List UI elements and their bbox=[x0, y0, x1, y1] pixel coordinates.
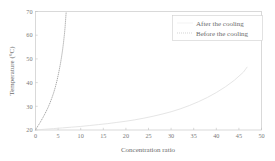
y-tick-label: 50 bbox=[26, 55, 32, 62]
x-tick-label: 0 bbox=[34, 132, 37, 139]
series-line-before-the-cooling bbox=[36, 12, 67, 131]
x-tick-label: 45 bbox=[236, 132, 242, 139]
y-axis-tick-labels: 203040506070 bbox=[26, 8, 32, 134]
x-tick-label: 5 bbox=[57, 132, 60, 139]
y-axis-title: Temperature (°C) bbox=[8, 46, 16, 96]
x-tick-label: 15 bbox=[100, 132, 106, 139]
x-tick-label: 40 bbox=[213, 132, 219, 139]
x-tick-label: 10 bbox=[78, 132, 84, 139]
x-axis-title: Concentration ratio bbox=[121, 146, 176, 154]
legend-label-before-the-cooling: Before the cooling bbox=[196, 30, 249, 38]
y-tick-label: 30 bbox=[26, 103, 32, 110]
y-tick-label: 20 bbox=[26, 126, 32, 133]
series-line-after-the-cooling bbox=[36, 67, 248, 130]
x-axis-tick-labels: 05101520253035404550 bbox=[34, 132, 265, 139]
x-tick-label: 20 bbox=[123, 132, 129, 139]
y-tick-label: 40 bbox=[26, 79, 32, 86]
x-tick-label: 35 bbox=[191, 132, 197, 139]
y-tick-label: 70 bbox=[26, 8, 32, 15]
chart-svg: 05101520253035404550 203040506070 Concen… bbox=[0, 0, 275, 161]
y-tick-label: 60 bbox=[26, 31, 32, 38]
x-tick-label: 30 bbox=[168, 132, 174, 139]
x-tick-label: 50 bbox=[258, 132, 264, 139]
legend-label-after-the-cooling: After the cooling bbox=[196, 20, 244, 28]
x-tick-label: 25 bbox=[145, 132, 151, 139]
legend: After the cooling Before the cooling bbox=[173, 16, 263, 41]
chart-container: 05101520253035404550 203040506070 Concen… bbox=[0, 0, 275, 161]
